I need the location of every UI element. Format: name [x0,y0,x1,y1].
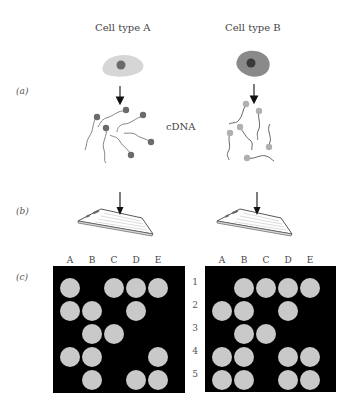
spot-B2 [82,301,102,321]
cell-a-icon [102,55,143,77]
spot-D5 [278,370,298,390]
col-header: A [211,255,233,265]
slide-a-icon [78,192,153,236]
microarray-slides-illustration [0,185,348,255]
row-label: 5 [190,369,200,379]
spot-A5 [212,370,232,390]
spot-A4 [60,347,80,367]
spot-B2 [234,301,254,321]
spot-A2 [212,301,232,321]
spot-D4 [278,347,298,367]
spot-E1 [300,278,320,298]
spot-E4 [148,347,168,367]
arrow-icon [117,84,258,104]
row-label: 3 [190,323,200,333]
spot-D5 [126,370,146,390]
col-header: B [81,255,103,265]
row-label: 2 [190,300,200,310]
slide-b-icon [217,192,292,236]
column-headers-a: A B C D E [59,255,169,265]
cdna-a-tag-icons [94,107,154,158]
cdna-b-strands [227,105,274,161]
cdna-b-tag-icons [227,101,272,161]
spot-B4 [82,347,102,367]
spot-A1 [60,278,80,298]
spot-B5 [82,370,102,390]
cell-and-cdna-illustration [0,0,348,190]
row-label: 4 [190,346,200,356]
col-header: D [277,255,299,265]
col-header: E [147,255,169,265]
spot-C3 [256,324,276,344]
spot-B1 [234,278,254,298]
spot-E5 [300,370,320,390]
spot-B4 [234,347,254,367]
microarray-cell-type-a [53,266,185,393]
col-header: B [233,255,255,265]
spot-A4 [212,347,232,367]
spot-B3 [234,324,254,344]
row-label: 1 [190,277,200,287]
spot-C1 [256,278,276,298]
spot-D2 [126,301,146,321]
spot-D2 [278,301,298,321]
spot-C1 [104,278,124,298]
spot-C3 [104,324,124,344]
spot-B3 [82,324,102,344]
panel-label-c: (c) [16,272,28,282]
spot-E1 [148,278,168,298]
col-header: C [103,255,125,265]
spot-D1 [126,278,146,298]
spot-D1 [278,278,298,298]
spot-A2 [60,301,80,321]
col-header: D [125,255,147,265]
microarray-cell-type-b [205,266,336,392]
col-header: C [255,255,277,265]
col-header: A [59,255,81,265]
cell-b-icon [236,51,269,77]
spot-B5 [234,370,254,390]
col-header: E [299,255,321,265]
spot-E5 [148,370,168,390]
spot-E4 [300,347,320,367]
column-headers-b: A B C D E [211,255,321,265]
